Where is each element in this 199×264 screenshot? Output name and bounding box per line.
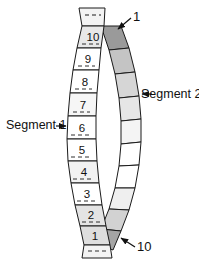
left-strip: 10 9 8 7 6 5 4 (67, 8, 112, 258)
left-cell-9-number: 9 (85, 53, 91, 65)
left-cell-4-number: 4 (81, 166, 88, 178)
end-bottom-label: 10 (137, 240, 151, 253)
left-cell-2-number: 2 (88, 209, 94, 221)
left-cell-8-number: 8 (82, 76, 88, 88)
left-cell-3-number: 3 (84, 188, 90, 200)
left-cell-6-number: 6 (79, 122, 85, 134)
end-top-label: 1 (133, 10, 140, 23)
left-cap-bottom (82, 245, 112, 258)
left-cell-5-number: 5 (79, 144, 85, 156)
right-cell-2 (109, 48, 135, 74)
segment-2-label: Segment 2 (141, 88, 199, 101)
left-cell-10-number: 10 (87, 31, 100, 43)
left-cap-top (79, 8, 105, 26)
right-cell-3 (115, 72, 139, 98)
right-cell-6 (119, 142, 141, 166)
left-cell-7-number: 7 (80, 99, 86, 111)
end-bottom-leader (121, 238, 135, 247)
mobius-strip-diagram: 10 9 8 7 6 5 4 (0, 0, 199, 264)
figure-page: 10 9 8 7 6 5 4 (0, 0, 199, 264)
left-cell-1-number: 1 (92, 230, 98, 242)
segment-1-label: Segment 1 (6, 119, 66, 132)
end-top-leader (118, 18, 131, 29)
right-cell-1 (101, 26, 129, 50)
right-cell-4 (119, 96, 141, 121)
right-cell-5 (121, 119, 141, 144)
right-cell-7 (115, 165, 139, 188)
right-cell-8 (109, 188, 135, 210)
